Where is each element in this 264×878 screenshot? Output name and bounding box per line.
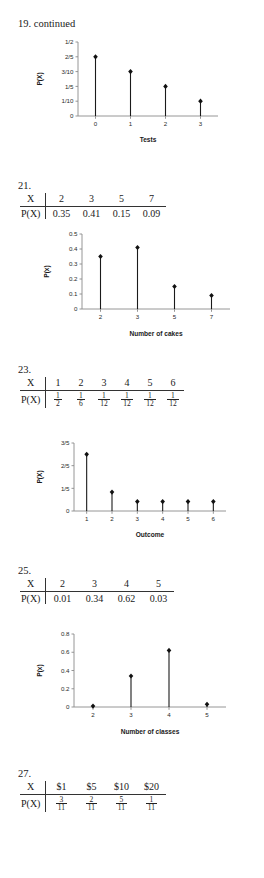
chart-21-number-of-cakes: 00.10.20.30.40.52357Number of cakesP(x) xyxy=(38,228,238,338)
fraction: 112 xyxy=(144,392,156,408)
data-point-marker xyxy=(160,499,165,504)
table-row: X2345 xyxy=(20,578,174,591)
y-tick-label: 0.2 xyxy=(69,275,78,282)
x-tick-label: 3 xyxy=(136,313,140,320)
data-point-marker xyxy=(205,702,210,707)
fraction: 16 xyxy=(77,392,85,408)
row-label: P(X) xyxy=(20,206,46,219)
table-cell-x: 1 xyxy=(46,377,70,390)
x-tick-label: 5 xyxy=(186,515,190,522)
y-tick-label: 0.8 xyxy=(61,630,70,637)
x-axis-label: Number of cakes xyxy=(129,330,182,337)
table-cell-x: 3 xyxy=(76,193,106,206)
data-point-marker xyxy=(135,499,140,504)
y-tick-label: 0 xyxy=(74,305,78,312)
table: X123456P(X)1216112112112112 xyxy=(20,377,184,408)
problem-heading-27: 27. xyxy=(18,768,31,779)
table-cell-x: 5 xyxy=(106,193,136,206)
data-point-marker xyxy=(84,452,89,457)
row-label: X xyxy=(20,193,46,206)
y-tick-label: 0 xyxy=(66,507,70,514)
x-tick-label: 4 xyxy=(161,515,165,522)
y-tick-label: 0.4 xyxy=(69,245,78,252)
x-tick-label: 2 xyxy=(164,120,168,127)
table-row: P(X)311211511111 xyxy=(20,794,166,812)
data-point-marker xyxy=(93,54,98,59)
fraction: 511 xyxy=(116,796,127,812)
table-cell-p: 16 xyxy=(69,390,92,408)
table-row: P(X)0.010.340.620.03 xyxy=(20,591,174,604)
table-cell-x: 2 xyxy=(69,377,92,390)
stem-plot: 01/101/53/102/51/20123TestsP(X) xyxy=(30,36,226,144)
table-row: X123456 xyxy=(20,377,184,390)
table-cell-x: 6 xyxy=(161,377,184,390)
document-page: 19. continued 01/101/53/102/51/20123Test… xyxy=(0,0,264,878)
problem-heading-25: 25. xyxy=(18,565,31,576)
y-tick-label: 1/5 xyxy=(65,83,74,90)
x-tick-label: 2 xyxy=(110,515,114,522)
y-tick-label: 1/2 xyxy=(65,38,74,45)
fraction: 211 xyxy=(86,796,97,812)
x-tick-label: 3 xyxy=(136,515,140,522)
table-cell-x: 4 xyxy=(115,377,138,390)
x-tick-label: 5 xyxy=(173,313,177,320)
table-row: P(X)0.350.410.150.09 xyxy=(20,206,166,219)
table-cell-x: 7 xyxy=(136,193,166,206)
stem-plot: 00.20.40.60.82345Number of classesP(x) xyxy=(32,628,236,736)
problem-heading-21: 21. xyxy=(18,180,31,191)
table-cell-p: 112 xyxy=(138,390,161,408)
x-tick-label: 3 xyxy=(199,120,203,127)
row-label: X xyxy=(20,377,46,390)
x-tick-label: 2 xyxy=(91,711,95,718)
table-row: X2357 xyxy=(20,193,166,206)
data-point-marker xyxy=(163,84,168,89)
distribution-table-27: X$1$5$10$20P(X)311211511111 xyxy=(20,781,166,812)
table-cell-p: 211 xyxy=(76,794,106,812)
data-point-marker xyxy=(198,99,203,104)
x-tick-label: 3 xyxy=(129,711,133,718)
stem-plot: 01/52/53/5123456OutcomeP(X) xyxy=(32,437,236,539)
y-tick-label: 1/10 xyxy=(61,97,74,104)
x-tick-label: 4 xyxy=(167,711,171,718)
table-cell-p: 111 xyxy=(136,794,166,812)
table-cell-p: 112 xyxy=(161,390,184,408)
data-point-marker xyxy=(211,499,216,504)
data-point-marker xyxy=(128,69,133,74)
fraction: 112 xyxy=(98,392,110,408)
fraction: 311 xyxy=(56,796,67,812)
x-tick-label: 7 xyxy=(210,313,214,320)
table-cell-p: 112 xyxy=(92,390,115,408)
table-cell-p: 311 xyxy=(46,794,77,812)
table-cell-x: 3 xyxy=(78,578,110,591)
x-tick-label: 5 xyxy=(205,711,209,718)
table-cell-x: $1 xyxy=(46,781,77,794)
table-cell-x: 5 xyxy=(142,578,174,591)
table-cell-p: 12 xyxy=(46,390,70,408)
y-tick-label: 0.4 xyxy=(61,667,70,674)
table-cell-p: 0.35 xyxy=(46,206,77,219)
data-point-marker xyxy=(110,490,115,495)
table-cell-x: 4 xyxy=(110,578,142,591)
x-axis-label: Tests xyxy=(140,136,157,143)
table-cell-x: 5 xyxy=(138,377,161,390)
row-label: X xyxy=(20,781,46,794)
y-tick-label: 0 xyxy=(70,112,74,119)
y-tick-label: 0 xyxy=(66,703,70,710)
chart-25-number-of-classes: 00.20.40.60.82345Number of classesP(x) xyxy=(32,628,236,736)
y-tick-label: 3/10 xyxy=(61,68,74,75)
data-point-marker xyxy=(167,648,172,653)
data-point-marker xyxy=(186,499,191,504)
problem-heading-23: 23. xyxy=(18,364,31,375)
y-tick-label: 1/5 xyxy=(61,485,70,492)
x-tick-label: 2 xyxy=(99,313,103,320)
x-tick-label: 6 xyxy=(212,515,216,522)
fraction: 111 xyxy=(146,796,157,812)
table: X2357P(X)0.350.410.150.09 xyxy=(20,193,166,219)
y-axis-label: P(x) xyxy=(36,664,44,676)
y-tick-label: 0.2 xyxy=(61,685,70,692)
table-cell-x: $5 xyxy=(76,781,106,794)
y-tick-label: 0.6 xyxy=(61,648,70,655)
chart-19-tests: 01/101/53/102/51/20123TestsP(X) xyxy=(30,36,226,144)
y-axis-label: P(X) xyxy=(36,470,44,483)
row-label: P(X) xyxy=(20,794,46,812)
